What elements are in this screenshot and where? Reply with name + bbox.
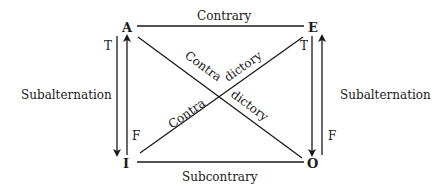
- corner-i-label: I: [123, 156, 129, 171]
- corner-o-label: O: [307, 156, 318, 171]
- subalternation-label-left: Subalternation: [21, 88, 112, 102]
- corner-e-label: E: [308, 20, 318, 35]
- subcontrary-label: Subcontrary: [182, 170, 258, 184]
- truth-label-f-left: F: [132, 129, 140, 143]
- diagram-canvas: A E I O Contrary Subcontrary Subalternat…: [0, 0, 441, 194]
- contradictory-label-a-o-part1: Contra: [182, 48, 224, 84]
- truth-label-f-right: F: [328, 129, 336, 143]
- contrary-label: Contrary: [197, 9, 252, 23]
- subalternation-label-right: Subalternation: [340, 88, 431, 102]
- truth-label-t-left: T: [104, 39, 112, 53]
- truth-label-t-right: T: [300, 39, 308, 53]
- square-of-opposition-diagram: A E I O Contrary Subcontrary Subalternat…: [0, 0, 441, 194]
- contradictory-line-i-e: [140, 37, 303, 153]
- corner-a-label: A: [121, 20, 133, 35]
- contradictory-label-i-e-part1: Contra: [166, 96, 208, 132]
- contradictory-label-a-o-part2: dictory: [228, 87, 271, 124]
